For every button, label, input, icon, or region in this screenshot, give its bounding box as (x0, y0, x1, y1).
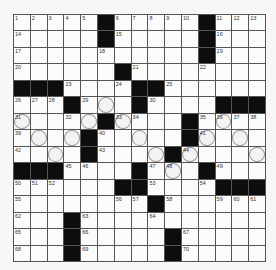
grid-cell[interactable] (182, 196, 198, 211)
grid-cell[interactable] (81, 196, 97, 211)
grid-cell[interactable] (199, 213, 215, 228)
grid-cell[interactable] (232, 64, 248, 79)
grid-cell[interactable]: 32 (64, 114, 80, 129)
grid-cell[interactable] (81, 180, 97, 195)
grid-cell[interactable]: 20 (14, 64, 30, 79)
grid-cell[interactable] (48, 196, 64, 211)
grid-cell[interactable] (98, 81, 114, 96)
grid-cell[interactable] (165, 130, 181, 145)
grid-cell[interactable] (48, 48, 64, 63)
grid-cell[interactable]: 56 (115, 196, 131, 211)
grid-cell[interactable]: 12 (232, 15, 248, 30)
grid-cell[interactable]: 63 (81, 213, 97, 228)
grid-cell[interactable] (132, 246, 148, 261)
grid-cell[interactable] (31, 246, 47, 261)
grid-cell[interactable] (148, 130, 164, 145)
grid-cell[interactable]: 2 (31, 15, 47, 30)
grid-cell[interactable] (148, 114, 164, 129)
grid-cell[interactable] (31, 114, 47, 129)
grid-cell[interactable] (249, 130, 265, 145)
grid-cell[interactable] (48, 246, 64, 261)
grid-cell[interactable]: 37 (232, 114, 248, 129)
grid-cell[interactable]: 17 (14, 48, 30, 63)
grid-cell[interactable] (182, 31, 198, 46)
grid-cell[interactable] (165, 114, 181, 129)
grid-cell[interactable] (132, 130, 148, 145)
grid-cell[interactable]: 19 (216, 48, 232, 63)
grid-cell[interactable]: 31 (14, 114, 30, 129)
grid-cell[interactable] (199, 147, 215, 162)
grid-cell[interactable] (48, 64, 64, 79)
grid-cell[interactable]: 40 (98, 130, 114, 145)
grid-cell[interactable] (64, 64, 80, 79)
grid-cell[interactable] (249, 31, 265, 46)
grid-cell[interactable]: 8 (148, 15, 164, 30)
grid-cell[interactable]: 43 (98, 147, 114, 162)
grid-cell[interactable] (216, 229, 232, 244)
grid-cell[interactable]: 35 (199, 114, 215, 129)
grid-cell[interactable] (165, 48, 181, 63)
grid-cell[interactable]: 44 (182, 147, 198, 162)
grid-cell[interactable]: 66 (81, 229, 97, 244)
grid-cell[interactable]: 23 (64, 81, 80, 96)
grid-cell[interactable] (232, 163, 248, 178)
grid-cell[interactable]: 65 (14, 229, 30, 244)
grid-cell[interactable] (199, 196, 215, 211)
grid-cell[interactable] (249, 81, 265, 96)
grid-cell[interactable] (132, 31, 148, 46)
grid-cell[interactable]: 5 (81, 15, 97, 30)
grid-cell[interactable] (31, 213, 47, 228)
grid-cell[interactable]: 21 (132, 64, 148, 79)
grid-cell[interactable] (98, 229, 114, 244)
grid-cell[interactable] (249, 246, 265, 261)
grid-cell[interactable] (132, 213, 148, 228)
grid-cell[interactable] (232, 213, 248, 228)
grid-cell[interactable] (199, 97, 215, 112)
grid-cell[interactable] (115, 147, 131, 162)
grid-cell[interactable] (81, 64, 97, 79)
grid-cell[interactable] (31, 196, 47, 211)
grid-cell[interactable]: 10 (182, 15, 198, 30)
grid-cell[interactable] (64, 180, 80, 195)
grid-cell[interactable] (81, 81, 97, 96)
grid-cell[interactable]: 62 (14, 213, 30, 228)
grid-cell[interactable] (232, 229, 248, 244)
grid-cell[interactable] (148, 31, 164, 46)
grid-cell[interactable]: 16 (216, 31, 232, 46)
grid-cell[interactable] (148, 246, 164, 261)
grid-cell[interactable]: 45 (64, 163, 80, 178)
grid-cell[interactable] (64, 130, 80, 145)
grid-cell[interactable] (132, 147, 148, 162)
grid-cell[interactable] (115, 97, 131, 112)
grid-cell[interactable] (232, 246, 248, 261)
grid-cell[interactable]: 41 (199, 130, 215, 145)
grid-cell[interactable]: 14 (14, 31, 30, 46)
grid-cell[interactable]: 58 (165, 196, 181, 211)
grid-cell[interactable]: 13 (249, 15, 265, 30)
grid-cell[interactable] (115, 213, 131, 228)
grid-cell[interactable] (148, 48, 164, 63)
grid-cell[interactable] (81, 48, 97, 63)
grid-cell[interactable] (165, 180, 181, 195)
grid-cell[interactable] (182, 97, 198, 112)
grid-cell[interactable]: 18 (98, 48, 114, 63)
grid-cell[interactable] (148, 229, 164, 244)
grid-cell[interactable] (31, 31, 47, 46)
grid-cell[interactable] (64, 147, 80, 162)
grid-cell[interactable] (98, 213, 114, 228)
grid-cell[interactable] (232, 130, 248, 145)
grid-cell[interactable]: 4 (64, 15, 80, 30)
grid-cell[interactable]: 30 (148, 97, 164, 112)
grid-cell[interactable]: 24 (115, 81, 131, 96)
grid-cell[interactable]: 39 (14, 130, 30, 145)
grid-cell[interactable] (115, 229, 131, 244)
grid-cell[interactable] (48, 229, 64, 244)
grid-cell[interactable]: 3 (48, 15, 64, 30)
grid-cell[interactable]: 22 (199, 64, 215, 79)
grid-cell[interactable] (98, 196, 114, 211)
grid-cell[interactable]: 29 (81, 97, 97, 112)
grid-cell[interactable]: 59 (216, 196, 232, 211)
grid-cell[interactable] (98, 246, 114, 261)
grid-cell[interactable]: 28 (48, 97, 64, 112)
grid-cell[interactable] (249, 147, 265, 162)
